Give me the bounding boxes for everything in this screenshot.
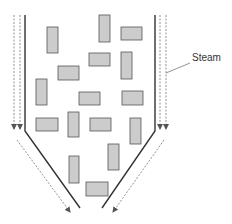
steam-arrow — [113, 140, 164, 212]
particle — [90, 118, 111, 131]
particle — [58, 66, 79, 80]
particle — [69, 156, 79, 183]
particle — [130, 118, 141, 144]
particle — [86, 182, 108, 196]
chute-walls — [25, 15, 155, 208]
particle — [121, 52, 132, 79]
steam-label: Steam — [192, 52, 221, 63]
particle — [36, 79, 47, 105]
steam-leader-line — [166, 63, 190, 73]
particle — [79, 92, 100, 105]
particle — [108, 144, 119, 170]
steam-arrow — [17, 140, 70, 212]
particle — [89, 53, 110, 66]
particle — [99, 15, 110, 42]
steam-chute-diagram — [0, 0, 232, 224]
particle — [68, 112, 79, 137]
particle — [122, 91, 143, 105]
particle — [36, 118, 58, 131]
particle — [121, 27, 142, 40]
particle — [47, 27, 58, 53]
right-wall — [102, 15, 155, 208]
